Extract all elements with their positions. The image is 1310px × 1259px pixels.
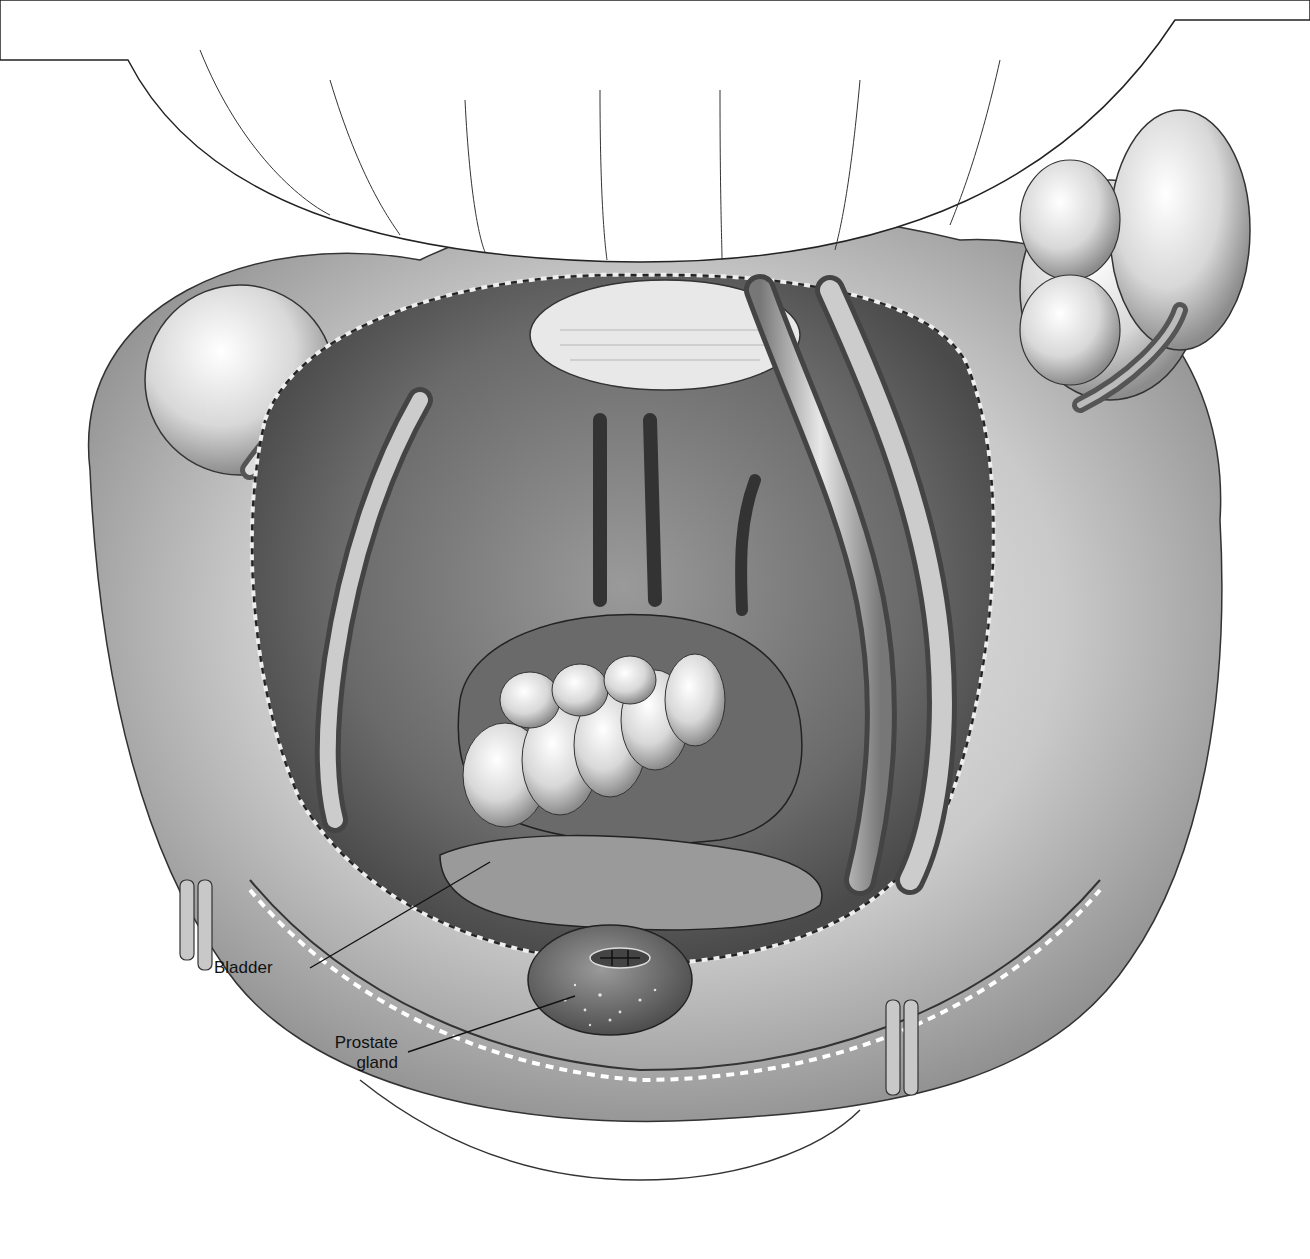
small-bowel [458, 614, 802, 843]
label-prostate-gland: Prostate gland [320, 1033, 398, 1073]
right-bowel-loop [1020, 110, 1250, 405]
label-prostate-line1: Prostate [320, 1033, 398, 1053]
label-bladder: Bladder [214, 958, 273, 978]
anatomical-illustration [0, 0, 1310, 1259]
label-prostate-line2: gland [320, 1053, 398, 1073]
